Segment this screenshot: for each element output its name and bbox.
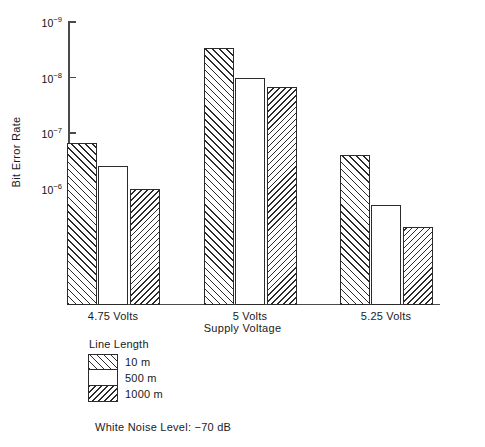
x-axis-title: Supply Voltage [0,322,485,334]
legend-entry: 10 m [88,354,163,370]
y-axis-tick [68,21,76,23]
y-axis-tick [68,77,76,79]
legend-entries: 10 m500 m1000 m [88,354,163,402]
x-axis-tick-label: 4.75 Volts [88,310,138,322]
legend-swatch [88,354,118,370]
legend-entry-label: 1000 m [125,388,163,400]
figure-bit-error-rate-chart: 10−910−810−710−6 Bit Error Rate 4.75 Vol… [0,0,485,447]
bar [67,143,97,305]
legend-entry: 1000 m [88,386,163,402]
legend-title: Line Length [89,338,163,350]
bar [371,205,401,305]
bar [403,227,433,305]
y-axis-tick-label: 10−6 [41,182,62,196]
plot-area [68,22,440,305]
bar [340,155,370,305]
legend-entry: 500 m [88,370,163,386]
white-noise-level-note: White Noise Level: −70 dB [95,421,231,433]
y-axis-title: Bit Error Rate [10,117,22,188]
y-axis-tick-label: 10−8 [41,71,62,85]
x-axis-tick-label: 5.25 Volts [361,310,411,322]
bar [204,48,234,305]
bar [130,189,160,306]
legend-entry-label: 500 m [125,372,157,384]
legend-entry-label: 10 m [125,356,150,368]
y-axis-tick-label: 10−9 [41,15,62,29]
x-axis-tick-label: 5 Volts [233,310,267,322]
y-axis-tick-label: 10−7 [41,126,62,140]
legend: Line Length 10 m500 m1000 m [88,338,163,402]
legend-swatch [88,370,118,386]
legend-swatch [88,386,118,402]
bar [267,87,297,305]
bar [98,166,128,305]
bar [235,78,265,306]
y-axis-tick [68,132,76,134]
